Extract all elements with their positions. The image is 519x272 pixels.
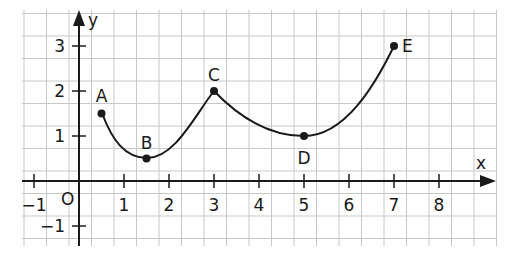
x-tick-label: 2	[164, 195, 175, 215]
y-tick-label: 2	[54, 81, 65, 101]
coordinate-plot: x y O −112345678−1123 ABCDE	[0, 0, 519, 272]
point-b	[143, 155, 151, 163]
ticks: −112345678−1123	[21, 36, 444, 236]
x-axis-arrow-icon	[480, 175, 496, 187]
x-tick-label: 4	[254, 195, 265, 215]
y-axis-arrow-icon	[73, 10, 85, 26]
point-e	[390, 42, 398, 50]
y-tick-label: 3	[54, 36, 65, 56]
point-label: D	[297, 148, 310, 168]
point-label: B	[141, 133, 153, 153]
x-tick-label: 6	[344, 195, 355, 215]
point-c	[210, 87, 218, 95]
x-tick-label: −1	[21, 195, 46, 215]
point-a	[98, 110, 106, 118]
y-tick-label: 1	[54, 126, 65, 146]
x-axis-label: x	[476, 153, 486, 173]
x-tick-label: 8	[434, 195, 445, 215]
origin-label: O	[61, 189, 74, 209]
x-tick-label: 7	[389, 195, 400, 215]
point-label: A	[96, 86, 108, 106]
point-d	[300, 132, 308, 140]
y-axis-label: y	[88, 10, 98, 30]
point-label: E	[402, 36, 413, 56]
x-tick-label: 5	[299, 195, 310, 215]
y-tick-label: −1	[40, 216, 65, 236]
point-label: C	[208, 65, 220, 85]
x-tick-label: 3	[209, 195, 220, 215]
x-tick-label: 1	[119, 195, 130, 215]
